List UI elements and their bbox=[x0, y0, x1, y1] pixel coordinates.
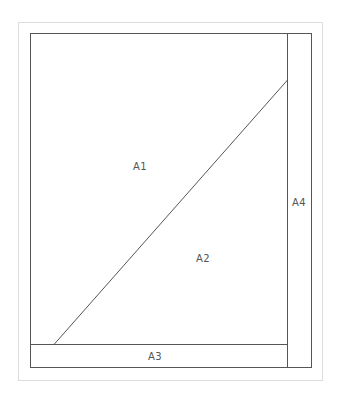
region-label-a4: A4 bbox=[292, 197, 306, 208]
inner-frame bbox=[31, 34, 312, 368]
layout-drawing bbox=[0, 0, 340, 401]
region-label-a3: A3 bbox=[148, 351, 162, 362]
region-label-a2: A2 bbox=[196, 253, 210, 264]
region-label-a1: A1 bbox=[133, 161, 147, 172]
diagram-canvas: A1 A2 A3 A4 bbox=[0, 0, 340, 401]
outer-dotted-border bbox=[19, 23, 323, 381]
diagonal-divider bbox=[54, 80, 288, 345]
